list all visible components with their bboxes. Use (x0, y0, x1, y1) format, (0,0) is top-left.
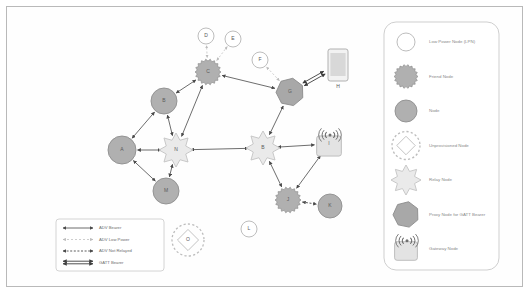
node-l-lpn[interactable]: L (241, 221, 257, 237)
node-c-friend[interactable]: C (195, 59, 221, 85)
node-k-node[interactable]: K (318, 194, 342, 218)
edge-B2-J (269, 161, 281, 187)
edge-B-C (176, 80, 196, 93)
node-a-circle (108, 136, 136, 164)
node-type-legend-panel: Low Power Node (LPN)Friend NodeNodeUnpro… (384, 22, 499, 270)
node-n-star (159, 133, 193, 167)
node-c-gear (195, 59, 221, 85)
node-h-screen (330, 53, 345, 76)
node-legend-label: Relay Node (429, 177, 452, 182)
edge-A-B (132, 112, 154, 138)
edge-G-B2 (269, 106, 283, 135)
bearer-legend-label: ADV Bearer (99, 225, 122, 230)
node-legend-label: Friend Node (429, 74, 454, 79)
legend-relay-star (391, 165, 421, 195)
edge-B2-I (278, 145, 315, 147)
node-b-node[interactable]: B (151, 88, 177, 114)
node-n-relay[interactable]: N (159, 133, 193, 167)
bearer-legend-label: ADV Not Relayed (99, 248, 132, 253)
node-a-node[interactable]: A (108, 136, 136, 164)
node-b-star (246, 131, 280, 165)
edge-N-B2 (191, 148, 248, 149)
node-b-circle (151, 88, 177, 114)
node-label: H (336, 83, 340, 89)
edge-C-D (207, 45, 208, 57)
edge-B-N (167, 115, 172, 136)
edge-G-F (266, 67, 279, 81)
node-o-unprovisioned[interactable]: O (172, 224, 204, 256)
node-m-circle (153, 178, 179, 204)
legend-node-circle (395, 100, 417, 122)
node-legend-label: Low Power Node (LPN) (429, 39, 476, 44)
edge-G-H (303, 71, 325, 85)
node-legend-label: Unprovisioned Node (429, 143, 469, 148)
bearer-legend-label: ADV Low Power (99, 237, 130, 242)
node-h-phone[interactable]: H (328, 49, 348, 89)
node-b-relay[interactable]: B (246, 131, 280, 165)
node-i-gateway[interactable]: I (317, 129, 342, 156)
node-o-diamond (177, 229, 198, 250)
node-d-circle (198, 28, 214, 44)
edge-C-N (182, 85, 203, 136)
network-diagram: ABCDEFNMGHBIJKLO ADV BearerADV Low Power… (0, 0, 531, 295)
node-f-circle (252, 52, 268, 68)
edge-A-M (133, 161, 155, 182)
node-m-node[interactable]: M (153, 178, 179, 204)
node-f-lpn[interactable]: F (252, 52, 268, 68)
node-l-circle (241, 221, 257, 237)
screenshot-canvas: ABCDEFNMGHBIJKLO ADV BearerADV Low Power… (0, 0, 531, 295)
bearer-legend-label: GATT Bearer (99, 260, 124, 265)
edge-C-E (217, 47, 228, 61)
node-e-lpn[interactable]: E (225, 31, 241, 47)
node-legend-label: Gateway Node (429, 246, 459, 251)
edge-I-J (297, 156, 321, 189)
node-j-gear (275, 187, 301, 213)
node-i-box (317, 136, 342, 156)
node-g-heptagon (276, 78, 303, 105)
node-legend-label: Proxy Node for GATT Bearer (429, 212, 486, 217)
node-legend-label: Node (429, 108, 440, 113)
node-j-friend[interactable]: J (275, 187, 301, 213)
edge-M-N (169, 164, 172, 177)
edge-J-K (302, 202, 316, 204)
node-k-circle (318, 194, 342, 218)
bearer-legend-panel: ADV BearerADV Low PowerADV Not RelayedGA… (56, 219, 164, 271)
node-d-lpn[interactable]: D (198, 28, 214, 44)
edge-C-G (222, 75, 275, 88)
legend-lpn-circle (397, 33, 415, 51)
node-g-proxy[interactable]: G (276, 78, 303, 105)
node-e-circle (225, 31, 241, 47)
